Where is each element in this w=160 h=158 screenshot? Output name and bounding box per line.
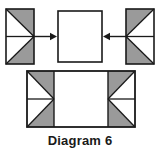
right-pattern-rectangle [126, 9, 154, 64]
left-pattern-rectangle [6, 9, 34, 64]
center-empty-square [58, 11, 102, 62]
result-combined-rectangle [27, 71, 135, 127]
result-right-band [108, 71, 135, 127]
diagram-caption: Diagram 6 [0, 131, 160, 149]
center-square-border [58, 11, 102, 62]
result-left-band [27, 71, 54, 127]
diagram-caption-label: Diagram 6 [48, 133, 113, 148]
